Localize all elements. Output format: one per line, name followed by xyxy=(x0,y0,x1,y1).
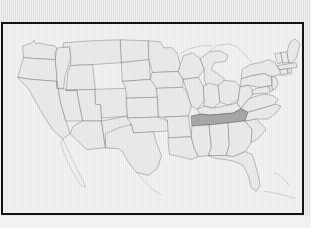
state-rhode-island[interactable] xyxy=(288,68,291,73)
state-texas[interactable] xyxy=(105,125,161,175)
coastline-cuba xyxy=(264,191,295,198)
state-maryland[interactable] xyxy=(252,86,272,94)
state-iowa[interactable] xyxy=(151,71,184,88)
state-maine[interactable] xyxy=(287,39,300,63)
coastline-lake-superior xyxy=(180,46,212,54)
state-south-dakota[interactable] xyxy=(122,60,151,82)
state-arizona[interactable] xyxy=(70,121,105,150)
state-wisconsin[interactable] xyxy=(178,53,204,80)
state-alabama[interactable] xyxy=(208,123,229,156)
state-north-dakota[interactable] xyxy=(121,40,149,63)
state-montana[interactable] xyxy=(63,40,122,66)
us-states-map[interactable] xyxy=(3,24,302,213)
state-oklahoma[interactable] xyxy=(128,117,170,133)
state-kansas[interactable] xyxy=(127,97,159,118)
state-washington[interactable] xyxy=(23,40,57,59)
state-oregon[interactable] xyxy=(18,58,57,82)
coastline-gulf-mexico xyxy=(137,172,162,195)
state-massachusetts[interactable] xyxy=(278,63,297,70)
coastline-baja-california xyxy=(61,139,86,187)
bottom-background-strip xyxy=(0,216,311,228)
map-frame xyxy=(1,22,304,215)
state-ohio[interactable] xyxy=(218,80,240,105)
state-wyoming[interactable] xyxy=(66,65,95,91)
screenshot-root xyxy=(0,0,311,228)
state-indiana[interactable] xyxy=(203,83,220,108)
state-arkansas[interactable] xyxy=(164,116,191,138)
state-florida[interactable] xyxy=(208,152,260,192)
coastline-bahamas xyxy=(274,172,289,185)
state-missouri[interactable] xyxy=(156,87,191,117)
state-new-jersey[interactable] xyxy=(272,76,278,89)
state-georgia[interactable] xyxy=(226,121,252,157)
state-minnesota[interactable] xyxy=(149,41,181,73)
